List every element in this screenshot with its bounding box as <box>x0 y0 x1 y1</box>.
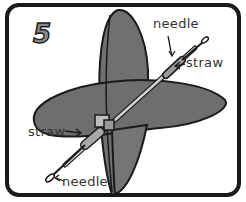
label-straw-top: straw <box>186 56 223 69</box>
pinwheel-diagram: 5 <box>0 0 246 202</box>
svg-text:5: 5 <box>33 19 51 49</box>
label-needle-top: needle <box>153 17 199 30</box>
label-straw-bottom: straw <box>28 125 65 138</box>
step-number-badge: 5 <box>33 19 51 49</box>
label-needle-bottom: needle <box>62 175 108 188</box>
illustration-panel: 5 <box>0 0 246 202</box>
